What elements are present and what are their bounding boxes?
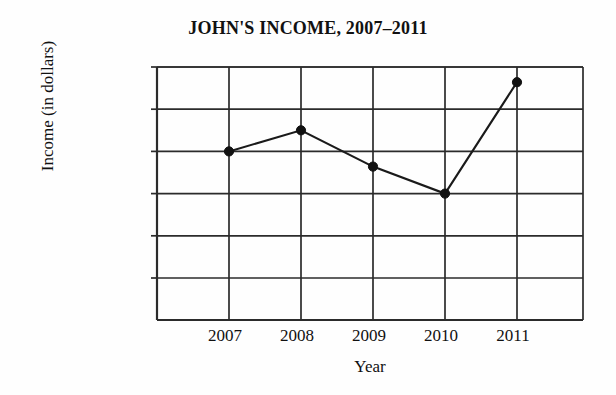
data-point-2008 — [296, 126, 305, 135]
gridlines — [157, 67, 583, 320]
chart-container: JOHN'S INCOME, 2007–2011 Income (in doll… — [0, 0, 616, 395]
data-point-2009 — [368, 162, 377, 171]
data-point-2011 — [512, 78, 521, 87]
plot-area — [0, 0, 616, 395]
data-point-2007 — [224, 147, 233, 156]
data-point-2010 — [440, 189, 449, 198]
